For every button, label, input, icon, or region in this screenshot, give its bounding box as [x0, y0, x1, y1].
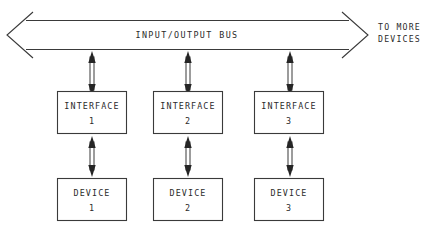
- column-1: INTERFACE 1 DEVICE 1: [58, 51, 127, 221]
- bus-to-interface-2-arrow: [184, 51, 191, 96]
- device-box-rect: [255, 179, 324, 221]
- column-3: INTERFACE 3 DEVICE 3: [255, 51, 324, 221]
- bus-left-arrowhead: [7, 12, 33, 58]
- bus-to-interface-1-arrow: [88, 51, 95, 96]
- device-box-rect: [58, 179, 127, 221]
- bus-right-arrowhead: [342, 12, 368, 58]
- arrow-head-up: [184, 136, 191, 148]
- interface-box-number: 3: [286, 116, 292, 126]
- arrow-head-down: [88, 165, 95, 177]
- interface-box-number: 2: [185, 116, 191, 126]
- interface-3-to-device-3-arrow: [286, 136, 293, 177]
- arrow-head-up: [286, 136, 293, 148]
- interface-box-name: INTERFACE: [160, 101, 215, 111]
- bus-band: INPUT/OUTPUT BUS: [7, 12, 368, 58]
- interface-box-2: INTERFACE 2: [154, 92, 223, 134]
- arrow-head-down: [184, 165, 191, 177]
- column-2: INTERFACE 2 DEVICE 2: [154, 51, 223, 221]
- interface-1-to-device-1-arrow: [88, 136, 95, 177]
- interface-2-to-device-2-arrow: [184, 136, 191, 177]
- interface-box-name: INTERFACE: [64, 101, 119, 111]
- arrow-head-up: [286, 51, 293, 63]
- interface-box-rect: [154, 92, 223, 134]
- arrow-head-down: [286, 165, 293, 177]
- device-box-1: DEVICE 1: [58, 179, 127, 221]
- interface-box-rect: [58, 92, 127, 134]
- interface-box-3: INTERFACE 3: [255, 92, 324, 134]
- io-bus-diagram: INPUT/OUTPUT BUS TO MORE DEVICES INTERFA…: [0, 0, 434, 231]
- device-box-3: DEVICE 3: [255, 179, 324, 221]
- device-box-2: DEVICE 2: [154, 179, 223, 221]
- device-box-number: 2: [185, 203, 191, 213]
- interface-box-rect: [255, 92, 324, 134]
- device-box-name: DEVICE: [74, 188, 111, 198]
- device-box-number: 1: [89, 203, 95, 213]
- device-box-number: 3: [286, 203, 292, 213]
- to-more-devices-line2: DEVICES: [378, 34, 421, 44]
- interface-box-name: INTERFACE: [261, 101, 316, 111]
- bus-label: INPUT/OUTPUT BUS: [135, 30, 238, 40]
- bus-to-interface-3-arrow: [286, 51, 293, 96]
- interface-box-1: INTERFACE 1: [58, 92, 127, 134]
- arrow-head-up: [88, 136, 95, 148]
- to-more-devices-note: TO MORE DEVICES: [378, 22, 421, 44]
- device-box-name: DEVICE: [170, 188, 207, 198]
- arrow-head-up: [88, 51, 95, 63]
- device-box-rect: [154, 179, 223, 221]
- arrow-head-up: [184, 51, 191, 63]
- device-box-name: DEVICE: [271, 188, 308, 198]
- interface-box-number: 1: [89, 116, 95, 126]
- to-more-devices-line1: TO MORE: [378, 22, 421, 32]
